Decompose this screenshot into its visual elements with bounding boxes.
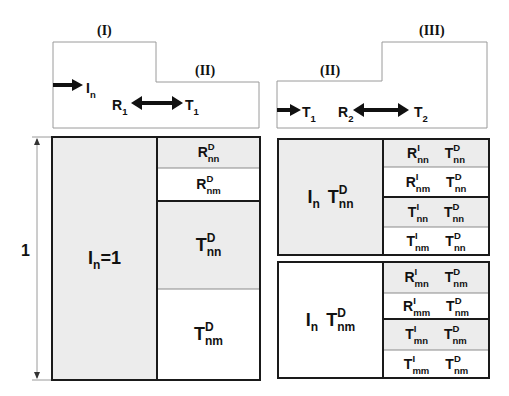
incident-transmission-nn-cell: In TDnn [278,139,383,255]
incident-label: T1 [302,102,316,123]
reflection-nn-cell: RDnn [157,137,260,168]
double-arrow-icon [131,96,183,110]
incident-arrow-icon [53,79,83,91]
product-cell: TInn TDnn [383,197,489,227]
product-cell: RImn TDnm [383,262,489,293]
transmission-nm-cell: TDnm [157,289,260,380]
incident-unit-cell: In=1 [52,137,157,380]
dimension-line [32,137,52,380]
transmitted-label: T2 [414,102,428,123]
region-label-2: (II) [195,64,215,78]
product-cell: RImm TDnm [383,293,489,319]
incident-label: In [86,78,96,99]
reflection-nm-cell: RDnm [157,168,260,201]
product-cell: RInm TDnn [383,167,489,197]
transmission-nn-cell: TDnn [157,201,260,289]
region-label-1: (I) [97,24,112,38]
reflected-label: R1 [112,95,127,116]
product-cell: TInm TDnn [383,227,489,255]
waveguide-outline-left [53,42,259,128]
region-label-2: (II) [320,64,340,78]
product-cell: TImm TDnm [383,350,489,378]
incident-arrow-icon [277,104,301,116]
product-cell: TImn TDnm [383,319,489,350]
dimension-label: 1 [21,243,30,259]
double-arrow-icon [353,103,409,117]
product-cell: RInn TDnn [383,139,489,167]
region-label-3: (III) [419,24,445,38]
reflected-label: R2 [338,102,353,123]
incident-transmission-nm-cell: In TDnm [278,262,383,378]
transmitted-label: T1 [185,95,199,116]
